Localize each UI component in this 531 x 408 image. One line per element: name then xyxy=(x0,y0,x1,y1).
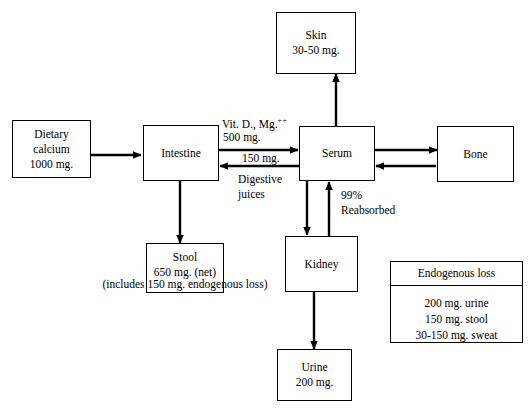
intestine-label: Intestine xyxy=(161,146,201,161)
node-intestine[interactable]: Intestine xyxy=(143,125,219,181)
stool-endogenous-caption: (includes 150 mg. endogenous loss) xyxy=(55,277,315,292)
dietary-calcium-line2: calcium xyxy=(33,142,69,157)
legend-item-urine: 200 mg. urine xyxy=(391,295,522,311)
dietary-calcium-line1: Dietary xyxy=(34,127,68,142)
kidney-label: Kidney xyxy=(305,257,339,272)
node-urine[interactable]: Urine 200 mg. xyxy=(277,349,352,401)
dietary-calcium-line3: 1000 mg. xyxy=(30,157,73,172)
node-bone[interactable]: Bone xyxy=(437,126,514,182)
edge-label-reabsorbed-word: Reabsorbed xyxy=(341,203,395,218)
legend-item-stool: 150 mg. stool xyxy=(391,311,522,327)
node-serum[interactable]: Serum xyxy=(299,126,375,181)
legend-item-sweat: 30-150 mg. sweat xyxy=(391,327,522,343)
endogenous-loss-legend: Endogenous loss 200 mg. urine 150 mg. st… xyxy=(390,261,523,343)
edge-label-secreted-150: 150 mg. xyxy=(242,151,280,166)
vit-d-mg-text: Vit. D., Mg. xyxy=(222,118,278,130)
legend-body: 200 mg. urine 150 mg. stool 30-150 mg. s… xyxy=(391,286,522,343)
edge-label-digestive-juices-line2: juices xyxy=(238,187,265,202)
vit-d-mg-superscript: ++ xyxy=(278,116,288,125)
bone-label: Bone xyxy=(463,147,487,162)
serum-label: Serum xyxy=(322,146,352,161)
edge-layer xyxy=(0,0,531,408)
legend-title: Endogenous loss xyxy=(391,262,522,286)
node-skin[interactable]: Skin 30-50 mg. xyxy=(276,12,356,74)
skin-value: 30-50 mg. xyxy=(292,43,339,58)
edge-label-digestive-juices-line1: Digestive xyxy=(238,172,282,187)
node-dietary-calcium[interactable]: Dietary calcium 1000 mg. xyxy=(12,120,91,178)
stool-label: Stool xyxy=(173,250,197,265)
edge-label-absorbed-500: 500 mg. xyxy=(223,130,261,145)
urine-label: Urine xyxy=(301,360,327,375)
edge-label-vit-d-mg: Vit. D., Mg.++ xyxy=(222,113,288,132)
edge-label-reabsorbed-percent: 99% xyxy=(341,188,362,203)
urine-value: 200 mg. xyxy=(296,375,334,390)
calcium-metabolism-diagram: Dietary calcium 1000 mg. Intestine Serum… xyxy=(0,0,531,408)
skin-label: Skin xyxy=(305,28,326,43)
